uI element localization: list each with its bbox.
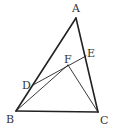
label-c: C: [100, 114, 108, 127]
label-e: E: [87, 47, 95, 60]
segments: [16, 18, 98, 112]
segment-ac: [76, 18, 98, 112]
segment-fc: [68, 65, 98, 112]
segment-bc: [16, 111, 98, 112]
label-f: F: [64, 53, 72, 66]
triangle-figure: A B C D E F: [0, 0, 114, 130]
label-b: B: [6, 113, 14, 126]
label-a: A: [71, 2, 81, 15]
point-labels: A B C D E F: [6, 2, 108, 127]
geometry-diagram: A B C D E F: [0, 0, 114, 130]
label-d: D: [22, 79, 31, 92]
